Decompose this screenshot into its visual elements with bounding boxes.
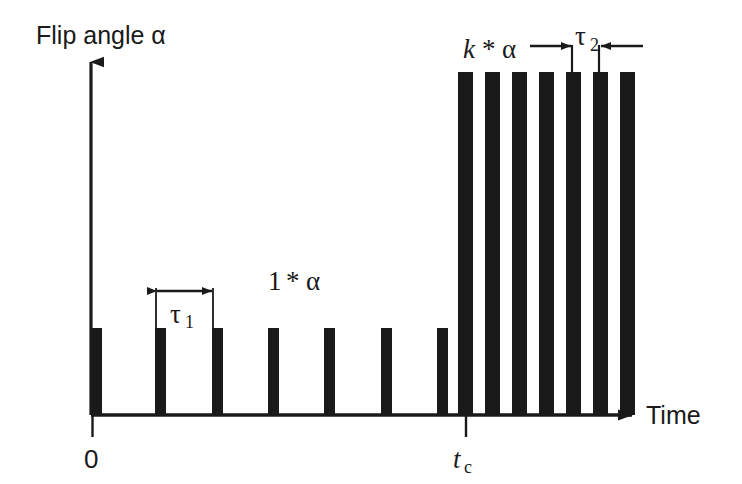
low-flip-angle-pulse-train <box>91 328 448 415</box>
pulse-high-4 <box>539 72 554 415</box>
pulse-high-6 <box>593 72 608 415</box>
pulse-low-2 <box>155 328 166 415</box>
critical-time-tick-label: t c <box>453 444 472 477</box>
critical-time-subscript: c <box>464 457 472 477</box>
pulse-sequence-diagram: τ 1 τ 2 Flip angle α Time 0 t c 1 * α k … <box>0 0 742 484</box>
tau1-subscript: 1 <box>185 312 194 332</box>
pulse-high-5 <box>566 72 581 415</box>
pulse-low-4 <box>268 328 279 415</box>
low-amplitude-label: 1 * α <box>268 266 320 296</box>
pulse-low-3 <box>212 328 223 415</box>
high-amplitude-label: k * α <box>463 34 516 64</box>
tau2-subscript: 2 <box>590 35 599 55</box>
pulse-low-7 <box>437 328 448 415</box>
origin-tick-label: 0 <box>84 444 98 474</box>
critical-time-symbol: t <box>453 444 462 474</box>
high-amplitude-multiplier: k <box>463 34 476 64</box>
figure-canvas: τ 1 τ 2 Flip angle α Time 0 t c 1 * α k … <box>0 0 742 484</box>
x-axis-label: Time <box>646 401 701 429</box>
pulse-high-7 <box>620 72 635 415</box>
high-amplitude-operator: * <box>482 34 496 64</box>
tau1-label: τ <box>170 299 181 329</box>
axis-ticks-group <box>93 415 467 437</box>
low-amplitude-angle-symbol: α <box>306 266 320 296</box>
pulse-high-1 <box>458 72 473 415</box>
high-flip-angle-pulse-train <box>458 72 635 415</box>
low-amplitude-multiplier: 1 <box>268 266 282 296</box>
y-axis-label: Flip angle α <box>36 21 166 49</box>
tau2-label: τ <box>575 21 586 51</box>
pulse-high-2 <box>485 72 500 415</box>
pulse-low-1 <box>91 328 102 415</box>
pulse-low-5 <box>324 328 335 415</box>
pulse-low-6 <box>381 328 392 415</box>
tau1-annotation: τ 1 <box>156 288 213 332</box>
pulse-high-3 <box>512 72 527 415</box>
high-amplitude-angle-symbol: α <box>502 34 516 64</box>
tau2-annotation: τ 2 <box>530 21 643 73</box>
low-amplitude-operator: * <box>286 266 300 296</box>
